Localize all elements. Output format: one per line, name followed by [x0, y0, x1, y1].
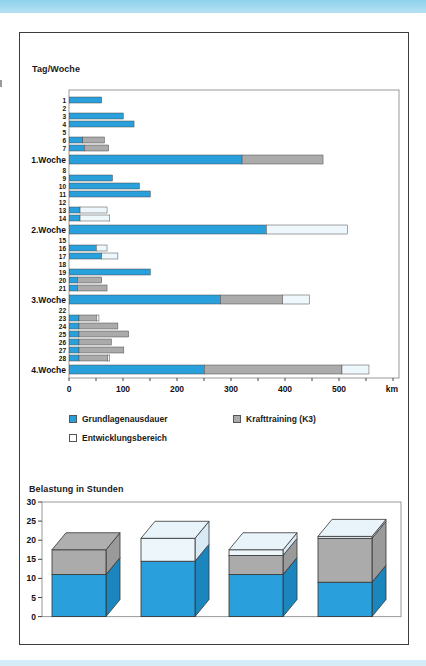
- bar-segment-gray: [79, 323, 118, 329]
- figure-frame: Tag/Woche 12345671.Woche8910111213142.Wo…: [19, 32, 409, 645]
- bar-segment-white: [102, 253, 118, 259]
- bar-segment-blue: [69, 285, 77, 291]
- week-label: 4.Woche: [31, 365, 66, 375]
- column-1.Woche: [52, 533, 120, 617]
- bar-segment-blue: [69, 191, 150, 197]
- day-label: 5: [62, 129, 66, 136]
- bar-segment-gray: [79, 315, 96, 321]
- day-label: 26: [59, 339, 67, 346]
- bar-segment-gray: [220, 295, 282, 304]
- day-label: 10: [59, 183, 67, 190]
- day-label: 23: [59, 315, 67, 322]
- bar-segment-blue: [69, 175, 112, 181]
- day-label: 16: [59, 245, 67, 252]
- column-3.Woche: [229, 533, 297, 617]
- bar-segment-white: [96, 315, 99, 321]
- bar-segment-blue: [69, 295, 220, 304]
- legend-label: Entwicklungsbereich: [82, 433, 167, 443]
- day-label: 11: [59, 191, 66, 198]
- x-axis-tick-label: 400: [278, 384, 292, 394]
- bar-segment-blue: [69, 113, 123, 119]
- y-axis-tick-label: 25: [27, 516, 37, 526]
- column-front-blue: [141, 561, 195, 616]
- bar-segment-white: [266, 225, 347, 234]
- bar-segment-blue: [69, 121, 134, 127]
- column-front-white: [229, 550, 283, 556]
- day-label: 28: [59, 355, 67, 362]
- bar-segment-gray: [83, 137, 105, 143]
- day-label: 27: [59, 347, 67, 354]
- bar-segment-blue: [69, 339, 79, 345]
- x-axis-tick-label: 0: [67, 384, 72, 394]
- day-label: 20: [59, 277, 67, 284]
- day-label: 4: [62, 121, 66, 128]
- y-axis-tick-label: 15: [27, 554, 37, 564]
- day-label: 2: [62, 105, 66, 112]
- day-label: 25: [59, 331, 67, 338]
- bar-segment-blue: [69, 207, 80, 213]
- column-front-gray: [318, 538, 372, 582]
- day-label: 13: [59, 207, 67, 214]
- bar-segment-gray: [79, 347, 124, 353]
- column-4.Woche: [318, 519, 386, 616]
- bar-segment-white: [80, 207, 107, 213]
- column-2.Woche: [141, 521, 209, 616]
- x-axis-unit-label: km: [386, 384, 399, 394]
- bar-segment-blue: [69, 137, 83, 143]
- day-label: 22: [59, 307, 67, 314]
- bar-segment-gray: [79, 355, 108, 361]
- page-margin-artifact: [0, 80, 2, 87]
- day-label: 6: [62, 137, 66, 144]
- bar-segment-blue: [69, 253, 101, 259]
- bar-segment-gray: [79, 331, 129, 337]
- bar-segment-white: [342, 365, 369, 374]
- bar-segment-gray: [204, 365, 342, 374]
- week-label: 3.Woche: [31, 295, 66, 305]
- column-front-gray: [52, 550, 106, 575]
- day-label: 7: [62, 145, 66, 152]
- bottom-accent-band: [0, 660, 426, 666]
- legend-label: Krafttraining (K3): [246, 414, 316, 424]
- bar-segment-blue: [69, 365, 204, 374]
- bar-segment-blue: [69, 215, 80, 221]
- bar-segment-blue: [69, 323, 79, 329]
- y-axis-tick-label: 10: [27, 573, 37, 583]
- bar-segment-blue: [69, 355, 79, 361]
- y-axis-tick-label: 30: [27, 497, 37, 507]
- y-axis-tick-label: 0: [31, 612, 36, 622]
- day-label: 17: [59, 253, 67, 260]
- column-front-blue: [52, 575, 106, 617]
- day-label: 1: [62, 97, 66, 104]
- day-label: 14: [59, 215, 67, 222]
- x-axis-tick-label: 500: [332, 384, 346, 394]
- bar-segment-white: [96, 245, 107, 251]
- column-front-blue: [229, 575, 283, 617]
- bar-segment-blue: [69, 347, 79, 353]
- week-label: 2.Woche: [31, 225, 66, 235]
- y-axis-tick-label: 5: [31, 593, 36, 603]
- bar-segment-white: [80, 215, 110, 221]
- bar-segment-blue: [69, 331, 79, 337]
- weekly-km-chart-title: Tag/Woche: [32, 64, 80, 74]
- bar-segment-blue: [69, 315, 79, 321]
- day-label: 8: [62, 167, 66, 174]
- day-label: 24: [59, 323, 67, 330]
- legend-item-krafttraining: Krafttraining (K3): [233, 414, 316, 424]
- legend-swatch-blue: [69, 415, 77, 423]
- day-label: 15: [59, 237, 67, 244]
- legend-label: Grundlagenausdauer: [82, 414, 168, 424]
- bar-segment-blue: [69, 155, 242, 164]
- weekly-km-chart: 12345671.Woche8910111213142.Woche1516171…: [20, 88, 408, 408]
- column-front-gray: [229, 555, 283, 574]
- bar-segment-gray: [77, 277, 101, 283]
- bar-segment-white: [108, 355, 110, 361]
- day-label: 9: [62, 175, 66, 182]
- legend-item-entwicklungsbereich: Entwicklungsbereich: [69, 433, 167, 443]
- day-label: 18: [59, 261, 67, 268]
- legend-swatch-gray: [233, 415, 241, 423]
- bar-segment-blue: [69, 225, 266, 234]
- x-axis-tick-label: 300: [224, 384, 238, 394]
- bar-segment-blue: [69, 145, 84, 151]
- day-label: 19: [59, 269, 67, 276]
- legend-swatch-white: [69, 434, 77, 442]
